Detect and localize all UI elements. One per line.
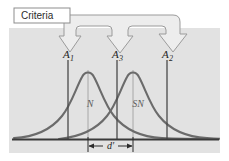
criterion-label-A1-sub: 1 [70, 54, 74, 63]
curve-label-noise: N [86, 98, 95, 109]
curve-label-signal-noise: SN [132, 98, 145, 109]
criterion-label-A3-base: A [111, 48, 119, 60]
criterion-label-A2-base: A [161, 48, 169, 60]
criterion-label-A2-sub: 2 [169, 54, 173, 63]
criterion-label-A1-base: A [62, 48, 70, 60]
signal-detection-figure: Criteria A 1 A 3 A 2 [0, 0, 229, 161]
figure-canvas: Criteria A 1 A 3 A 2 [0, 0, 229, 161]
criteria-label-box: Criteria [14, 8, 70, 23]
d-prime-label: d′ [107, 140, 115, 151]
criterion-label-A3-sub: 3 [118, 54, 123, 63]
criteria-label-text: Criteria [21, 10, 54, 21]
